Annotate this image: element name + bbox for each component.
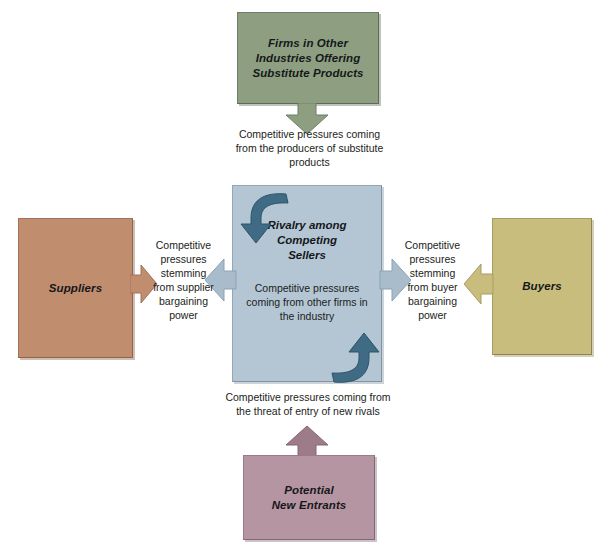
caption-substitutes-line-3: products [289,156,329,168]
caption-entrants-line-1: Competitive pressures coming from [225,391,390,403]
caption-buyers-line-6: power [418,309,447,321]
caption-suppliers-line-1: Competitive [156,239,211,251]
entrants-line-2: New Entrants [272,499,347,511]
caption-substitutes-line-2: from the producers of substitute [236,142,384,154]
caption-suppliers-line-5: bargaining [159,295,208,307]
curved-arrow-down-icon [238,190,290,250]
curved-arrow-up-icon [330,330,382,390]
rivalry-title-line-3: Sellers [288,249,326,261]
entrants-line-1: Potential [284,484,333,496]
caption-substitutes: Competitive pressures coming from the pr… [222,127,397,169]
caption-new-entrants: Competitive pressures coming from the th… [200,390,416,418]
caption-suppliers-line-3: stemming [161,267,207,279]
caption-suppliers-line-2: pressures [160,253,206,265]
caption-entrants-line-2: the threat of entry of new rivals [236,405,380,417]
box-potential-new-entrants: Potential New Entrants [243,455,375,540]
substitutes-line-2: Industries Offering [256,52,361,64]
rivalry-body-line-2: coming from other firms in [246,296,367,308]
caption-buyers-line-5: bargaining [408,295,457,307]
box-potential-new-entrants-label: Potential New Entrants [272,483,347,513]
box-substitute-products-label: Firms in Other Industries Offering Subst… [244,36,371,81]
box-buyers: Buyers [492,218,592,355]
rivalry-body-line-1: Competitive pressures [255,282,359,294]
caption-buyers-line-1: Competitive [405,239,460,251]
box-buyers-label: Buyers [522,279,562,294]
five-forces-diagram: Firms in Other Industries Offering Subst… [0,0,611,554]
substitutes-line-3: Substitute Products [252,67,363,79]
caption-suppliers-line-4: from supplier [153,281,214,293]
caption-buyers-line-3: stemming [410,267,456,279]
box-substitute-products: Firms in Other Industries Offering Subst… [237,12,379,104]
substitutes-line-1: Firms in Other [268,37,348,49]
box-suppliers-label: Suppliers [49,281,102,296]
caption-suppliers: Competitive pressures stemming from supp… [142,238,225,322]
caption-substitutes-line-1: Competitive pressures coming [239,128,380,140]
box-rivalry-body: Competitive pressures coming from other … [236,281,377,323]
caption-buyers-line-2: pressures [409,253,455,265]
caption-suppliers-line-6: power [169,309,198,321]
caption-buyers: Competitive pressures stemming from buye… [391,238,474,322]
caption-buyers-line-4: from buyer [407,281,457,293]
box-suppliers: Suppliers [18,218,133,358]
rivalry-body-line-3: the industry [280,310,334,322]
